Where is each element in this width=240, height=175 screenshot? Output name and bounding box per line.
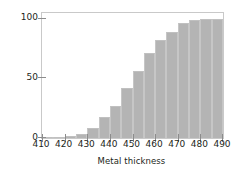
x-tick-label: 460 (146, 139, 163, 149)
bar (178, 23, 189, 138)
bar (144, 53, 155, 138)
bar (110, 106, 121, 138)
bar (121, 88, 132, 138)
bar (212, 19, 223, 138)
y-tick-label: 100 (14, 13, 38, 22)
x-tick-label: 450 (123, 139, 140, 149)
x-tick-label: 470 (168, 139, 185, 149)
chart-figure: Frequency 050100 41042043044045046047048… (0, 0, 240, 175)
bar (99, 117, 110, 138)
x-tick-label: 410 (32, 139, 49, 149)
y-tick-label: 50 (14, 73, 38, 82)
x-axis-title: Metal thickness (41, 156, 222, 166)
x-tick-label: 490 (213, 139, 230, 149)
x-tick-label-group: 410420430440450460470480490 (41, 139, 222, 151)
bar (155, 40, 166, 138)
bar (200, 19, 211, 138)
x-tick-label: 440 (100, 139, 117, 149)
y-tick-mark (38, 18, 46, 19)
bar (65, 136, 76, 138)
x-tick-label: 420 (55, 139, 72, 149)
bar-group (42, 13, 223, 138)
bar (133, 71, 144, 138)
bar (166, 32, 177, 138)
y-tick-mark (38, 77, 46, 78)
bar (76, 134, 87, 138)
bar (53, 137, 64, 138)
bar (189, 20, 200, 138)
x-tick-label: 480 (191, 139, 208, 149)
x-tick-label: 430 (78, 139, 95, 149)
bar (87, 128, 98, 138)
plot-area (41, 12, 224, 139)
